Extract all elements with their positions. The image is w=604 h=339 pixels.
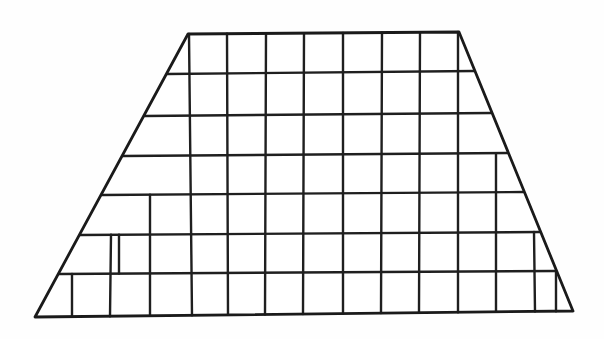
grid-line-vertical [227,34,228,315]
grid-line-vertical [534,232,535,311]
grid-line-vertical [381,33,382,314]
perspective-grid-figure [0,0,604,339]
grid-line-vertical [419,32,420,312]
grid-line-vertical [303,33,304,314]
grid-line-vertical [265,33,266,314]
grid-line-vertical [110,235,111,316]
grid-drawing-svg [0,0,604,339]
